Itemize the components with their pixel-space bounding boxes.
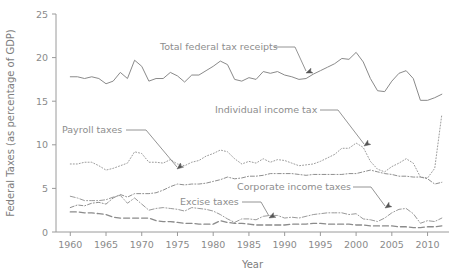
y-tick-label: 15	[36, 96, 48, 107]
x-tick-label: 2000	[344, 239, 368, 250]
series-layer	[70, 52, 442, 227]
x-tick-label: 1980	[201, 239, 225, 250]
y-tick-label: 25	[36, 9, 48, 20]
annotation-label-excise-taxes: Excise taxes	[180, 196, 239, 207]
annotation-leader-total-federal-tax-receipts	[274, 47, 306, 71]
x-tick-label: 1985	[237, 239, 261, 250]
x-tick-label: 2010	[415, 239, 439, 250]
y-tick-label: 10	[36, 139, 48, 150]
annotation-leader-individual-income-tax	[320, 110, 364, 144]
annotation-label-total-federal-tax-receipts: Total federal tax receipts	[159, 41, 278, 52]
federal-taxes-line-chart: 0510152025196019651970197519801985199019…	[0, 0, 458, 280]
annotation-label-payroll-taxes: Payroll taxes	[62, 124, 122, 135]
x-tick-label: 1970	[130, 239, 154, 250]
series-line-total-federal-tax-receipts	[70, 52, 442, 100]
x-axis-title: Year	[241, 259, 264, 270]
y-tick-label: 20	[36, 52, 48, 63]
y-tick-label: 0	[42, 227, 48, 238]
annotation-arrowhead-total-federal-tax-receipts	[305, 68, 313, 75]
annotation-arrowhead-corporate-income-taxes	[384, 202, 392, 210]
x-tick-label: 1995	[308, 239, 332, 250]
x-tick-label: 1965	[94, 239, 118, 250]
series-line-corporate-income-taxes	[70, 195, 442, 223]
annotation-arrowhead-excise-taxes	[268, 213, 276, 221]
y-axis-title: Federal Taxes (as percentage of GDP)	[5, 29, 16, 217]
series-line-individual-income-tax	[70, 114, 442, 178]
annotation-leader-payroll-taxes	[126, 130, 177, 167]
x-tick-label: 1960	[58, 239, 82, 250]
annotation-label-corporate-income-taxes: Corporate income taxes	[237, 181, 351, 192]
annotation-layer: Total federal tax receiptsIndividual inc…	[62, 41, 392, 220]
y-tick-label: 5	[42, 183, 48, 194]
chart-container: 0510152025196019651970197519801985199019…	[0, 0, 458, 280]
x-tick-label: 1975	[165, 239, 189, 250]
annotation-leader-corporate-income-taxes	[353, 187, 385, 206]
annotation-leader-excise-taxes	[242, 202, 269, 216]
annotation-label-individual-income-tax: Individual income tax	[215, 104, 318, 115]
x-tick-label: 1990	[273, 239, 297, 250]
x-tick-label: 2005	[380, 239, 404, 250]
